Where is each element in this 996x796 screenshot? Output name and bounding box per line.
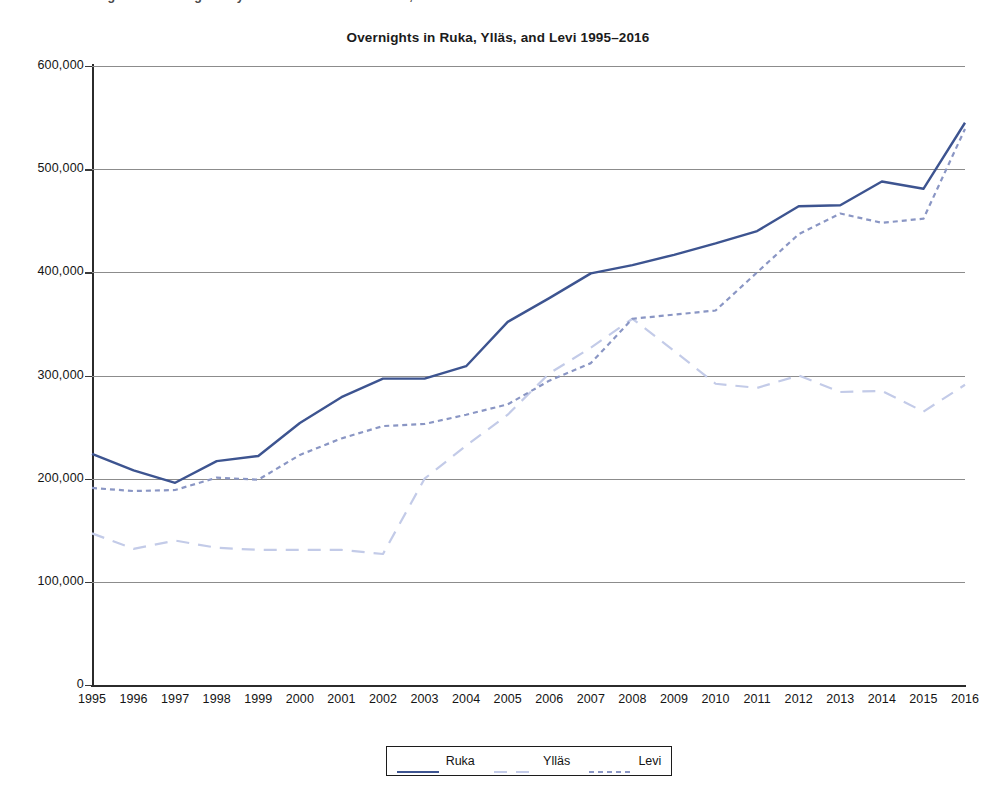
- series-line-ylls: [92, 319, 965, 554]
- chart-plot-wrapper: 0100,000200,000300,000400,000500,000600,…: [0, 0, 996, 796]
- legend-swatch-icon: [397, 760, 439, 762]
- legend-label: Ruka: [446, 754, 475, 768]
- chart-legend: RukaYlläsLevi: [386, 746, 672, 776]
- legend-entry-ylls[interactable]: Ylläs: [494, 754, 570, 768]
- legend-label: Ylläs: [543, 754, 570, 768]
- legend-label: Levi: [638, 754, 661, 768]
- legend-swatch-icon: [589, 760, 631, 762]
- legend-entry-ruka[interactable]: Ruka: [397, 754, 475, 768]
- series-layer: [0, 0, 996, 796]
- legend-entry-levi[interactable]: Levi: [589, 754, 661, 768]
- series-line-ruka: [92, 123, 965, 483]
- legend-swatch-icon: [494, 760, 536, 762]
